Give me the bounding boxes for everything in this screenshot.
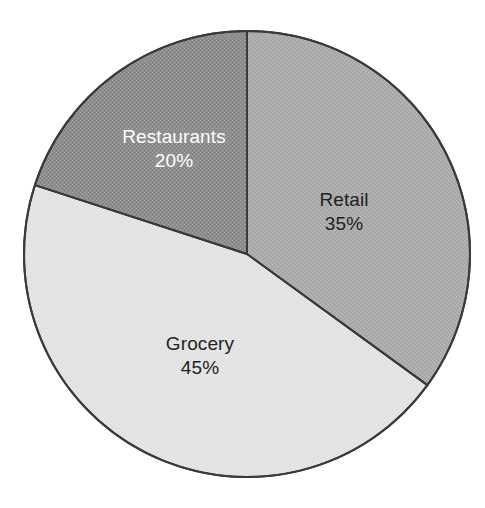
pie-chart-figure: Retail 35% Grocery 45% Restaurants 20% [0, 0, 485, 508]
pie-chart-svg [0, 0, 485, 508]
